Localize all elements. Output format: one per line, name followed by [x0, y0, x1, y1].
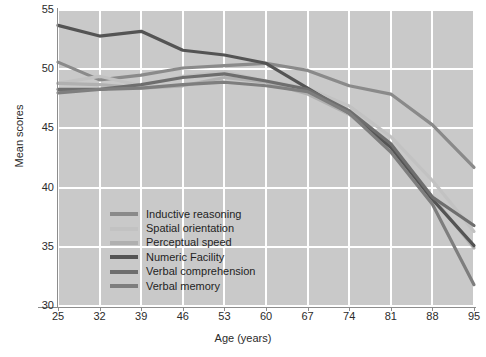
x-axis-tick-mark: [308, 307, 309, 311]
x-axis-tick-mark: [183, 307, 184, 311]
legend-item-label: Verbal comprehension: [146, 266, 255, 277]
y-axis-line: [57, 8, 58, 307]
x-axis-tick-label: 46: [168, 310, 198, 322]
x-axis-tick-mark: [391, 307, 392, 311]
legend-item: Spatial orientation: [110, 221, 255, 235]
y-axis-title: Mean scores: [13, 76, 25, 196]
x-axis-tick-mark: [349, 307, 350, 311]
legend-item-label: Inductive reasoning: [146, 209, 241, 220]
legend-color-swatch: [110, 270, 138, 274]
x-axis-tick-label: 67: [293, 310, 323, 322]
legend-item-label: Numeric Facility: [146, 252, 224, 263]
x-axis-tick-mark: [58, 307, 59, 311]
x-axis-tick-mark: [141, 307, 142, 311]
legend-item-label: Spatial orientation: [146, 223, 234, 234]
x-axis-tick-label: 53: [209, 310, 239, 322]
y-axis-tick-label: 50: [30, 62, 54, 74]
legend-item: Perceptual speed: [110, 236, 255, 250]
legend-color-swatch: [110, 212, 138, 216]
y-axis-tick-label: 45: [30, 121, 54, 133]
legend-item: Verbal comprehension: [110, 265, 255, 279]
legend-item: Inductive reasoning: [110, 207, 255, 221]
x-axis-line: [38, 307, 476, 308]
legend-item-label: Perceptual speed: [146, 237, 232, 248]
legend-item: Verbal memory: [110, 279, 255, 293]
legend-color-swatch: [110, 227, 138, 231]
y-axis-tick-label: 40: [30, 181, 54, 193]
y-axis-tick-label: 55: [30, 3, 54, 15]
x-axis-tick-label: 74: [334, 310, 364, 322]
x-axis-tick-label: 39: [126, 310, 156, 322]
x-axis-tick-label: 32: [85, 310, 115, 322]
line-chart: 303540455055 2532394653606774818895 Age …: [0, 0, 486, 357]
x-axis-tick-mark: [266, 307, 267, 311]
x-axis-tick-label: 60: [251, 310, 281, 322]
x-axis-tick-label: 95: [459, 310, 486, 322]
x-axis-tick-mark: [474, 307, 475, 311]
y-axis-tick-label: 35: [30, 240, 54, 252]
legend-color-swatch: [110, 255, 138, 259]
legend-item: Numeric Facility: [110, 250, 255, 264]
x-axis-tick-mark: [432, 307, 433, 311]
x-axis-tick-label: 81: [376, 310, 406, 322]
legend-color-swatch: [110, 241, 138, 245]
legend: Inductive reasoningSpatial orientationPe…: [110, 207, 255, 293]
x-axis-title: Age (years): [0, 332, 486, 344]
legend-item-label: Verbal memory: [146, 281, 220, 292]
x-axis-tick-mark: [100, 307, 101, 311]
legend-color-swatch: [110, 284, 138, 288]
x-axis-tick-mark: [224, 307, 225, 311]
series-line: [58, 62, 474, 167]
series-line: [58, 74, 474, 226]
x-axis-tick-label: 25: [43, 310, 73, 322]
x-axis-tick-label: 88: [417, 310, 447, 322]
